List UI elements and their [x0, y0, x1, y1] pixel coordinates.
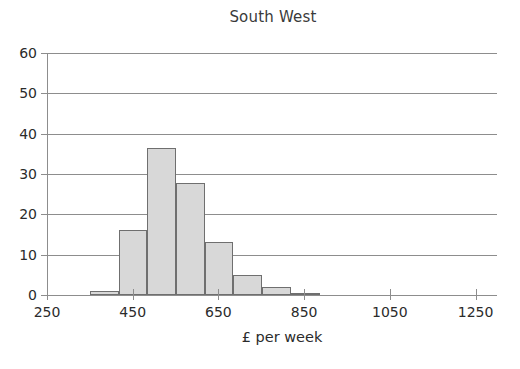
y-tick-label: 40	[19, 127, 37, 141]
x-tick-label: 850	[274, 305, 334, 319]
gridline-y-50	[47, 93, 497, 94]
x-axis-title-text: £ per week	[242, 329, 323, 345]
x-tick-mark	[133, 289, 134, 300]
y-tick-label: 50	[19, 86, 37, 100]
x-tick-label: 1250	[446, 305, 506, 319]
x-tick-mark	[304, 289, 305, 300]
histogram-bar	[205, 242, 234, 295]
histogram-bar	[119, 230, 148, 295]
y-tick-label: 20	[19, 207, 37, 221]
histogram-bar	[291, 293, 320, 295]
histogram-bar	[90, 291, 119, 295]
x-axis-line	[47, 295, 497, 296]
chart-title: South West	[0, 8, 520, 26]
x-tick-label: 450	[103, 305, 163, 319]
x-tick-label: 1050	[360, 305, 420, 319]
y-tick-label: 10	[19, 248, 37, 262]
gridline-y-40	[47, 134, 497, 135]
gridline-y-10	[47, 255, 497, 256]
y-tick-mark	[41, 214, 48, 215]
chart-figure: South West 0102030405060 250450650850105…	[0, 0, 520, 369]
histogram-bar	[176, 183, 205, 295]
gridline-y-30	[47, 174, 497, 175]
x-tick-mark	[476, 289, 477, 300]
y-tick-label: 30	[19, 167, 37, 181]
x-tick-mark	[218, 289, 219, 300]
y-tick-label: 0	[28, 288, 37, 302]
x-tick-mark	[390, 289, 391, 300]
x-axis-title: £ per week	[0, 329, 520, 345]
x-tick-label: 250	[17, 305, 77, 319]
y-tick-mark	[41, 134, 48, 135]
x-tick-mark	[47, 289, 48, 300]
y-tick-mark	[41, 174, 48, 175]
histogram-bar	[233, 275, 262, 295]
y-tick-mark	[41, 53, 48, 54]
y-tick-mark	[41, 93, 48, 94]
y-tick-mark	[41, 255, 48, 256]
histogram-bar	[262, 287, 291, 295]
plot-area	[47, 53, 497, 295]
gridline-y-20	[47, 214, 497, 215]
x-tick-label: 650	[188, 305, 248, 319]
histogram-bar	[147, 148, 176, 295]
gridline-y-60	[47, 53, 497, 54]
y-tick-label: 60	[19, 46, 37, 60]
chart-title-text: South West	[229, 8, 316, 26]
